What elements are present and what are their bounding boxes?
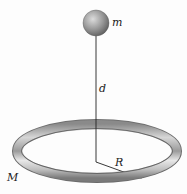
label-point-mass: m (112, 17, 122, 28)
label-ring-mass: M (7, 172, 18, 183)
ring-back (17, 124, 177, 151)
ring-and-point-mass-diagram: m d R M (0, 0, 187, 194)
ring-front (17, 129, 177, 178)
diagram-graphic (0, 0, 187, 194)
label-ring-radius: R (115, 157, 123, 168)
point-mass-sphere (83, 10, 109, 36)
label-distance: d (99, 83, 106, 94)
